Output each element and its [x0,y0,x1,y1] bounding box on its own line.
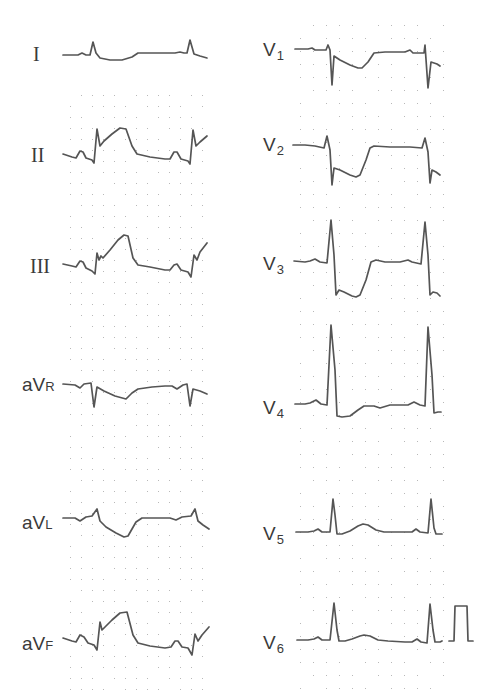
calibration-pulse [449,606,473,641]
lead-label-main: V [263,134,276,155]
lead-label-V4: V4 [263,398,284,417]
lead-label-aVF: aVF [22,634,53,653]
lead-label-aVL: aVL [22,513,52,532]
lead-label-main: aV [22,633,45,654]
lead-label-subscript: 2 [277,143,284,158]
trace-aVR [63,383,207,407]
lead-label-suffix: R [45,379,54,394]
lead-label-main: V [263,523,276,544]
lead-label-V5: V5 [263,524,284,543]
lead-label-I: I [33,44,40,64]
lead-label-main: V [263,397,276,418]
trace-V3 [294,220,440,297]
lead-label-main: aV [22,374,45,395]
lead-label-main: V [263,253,276,274]
lead-label-main: aV [22,512,45,533]
trace-V6 [297,603,442,643]
lead-label-subscript: 5 [277,532,284,547]
lead-label-main: V [263,39,276,60]
trace-V5 [296,499,442,534]
lead-label-V6: V6 [263,633,284,652]
lead-label-aVR: aVR [22,375,55,394]
trace-I [63,40,207,60]
lead-label-suffix: L [45,517,52,532]
lead-label-main: II [31,144,44,166]
lead-label-III: III [30,256,50,276]
lead-label-subscript: 4 [277,406,284,421]
lead-label-subscript: 3 [277,262,284,277]
lead-label-V2: V2 [263,135,284,154]
trace-V1 [295,45,440,88]
ecg-traces [63,40,442,655]
lead-label-main: V [263,632,276,653]
lead-label-subscript: 1 [277,48,284,63]
trace-aVF [63,612,209,655]
trace-V4 [295,325,441,417]
trace-II [63,128,207,164]
lead-label-suffix: F [45,638,53,653]
trace-III [63,235,207,277]
lead-label-V3: V3 [263,254,284,273]
lead-label-V1: V1 [263,40,284,59]
lead-label-main: I [33,43,40,65]
lead-label-II: II [31,145,44,165]
trace-V2 [293,136,440,185]
ecg-grid-dots [70,25,444,690]
lead-label-subscript: 6 [277,641,284,656]
lead-label-main: III [30,255,50,277]
ecg-tracing-area [0,0,498,692]
